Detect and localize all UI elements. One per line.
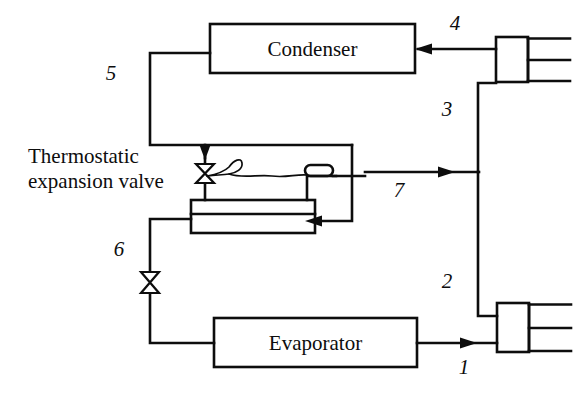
condenser-component: Condenser <box>210 24 415 73</box>
compressor-low-stage <box>497 303 571 352</box>
stream-4-line <box>415 44 496 55</box>
heat-exchanger-box <box>191 200 315 233</box>
stream-2-path <box>478 172 497 316</box>
throttle-valve-icon <box>141 272 159 293</box>
stream-label-3: 3 <box>441 97 453 121</box>
compressor-high-body <box>496 37 528 82</box>
stream-label-6: 6 <box>114 237 125 261</box>
expansion-valve-caption-line2: expansion valve <box>28 169 164 193</box>
stream-7-flow-arrow-icon <box>438 167 455 178</box>
stream-6-line <box>141 219 214 343</box>
stream-label-4: 4 <box>450 11 461 35</box>
thermostatic-expansion-valve-assembly: Thermostatic expansion valve <box>28 144 365 200</box>
heat-exchanger-return-path <box>322 145 352 221</box>
sensing-bulb-icon <box>305 165 333 176</box>
stream-6-path-upper <box>150 219 191 271</box>
evaporator-component: Evaporator <box>214 318 417 367</box>
stream-2-line <box>478 172 497 316</box>
stream-1-line <box>417 338 497 349</box>
compressor-high-stage <box>496 37 570 82</box>
refrigeration-cycle-diagram: Condenser Evaporator <box>0 0 584 393</box>
stream-1-flow-arrow-icon <box>460 338 477 349</box>
stream-label-5: 5 <box>106 61 117 85</box>
evaporator-label: Evaporator <box>269 331 362 355</box>
stream-4-flow-arrow-icon <box>415 44 432 55</box>
stream-label-1: 1 <box>459 355 470 379</box>
suction-line-to-heat-exchanger <box>307 176 336 200</box>
stream-label-2: 2 <box>442 269 453 293</box>
expansion-valve-caption-line1: Thermostatic <box>28 144 139 168</box>
condenser-label: Condenser <box>268 37 358 61</box>
stream-label-7: 7 <box>394 178 406 202</box>
capillary-tube-run-icon <box>229 174 307 177</box>
capillary-tube-icon <box>207 160 242 176</box>
compressor-low-body <box>497 303 529 352</box>
stream-6-path-lower <box>150 294 214 343</box>
stream-3-path <box>478 83 496 172</box>
expansion-valve-icon <box>196 164 214 183</box>
stream-7-line <box>365 167 479 178</box>
heat-exchanger-component <box>191 200 315 233</box>
stream-3-line <box>478 83 496 172</box>
schematic-canvas: Condenser Evaporator <box>0 0 584 393</box>
